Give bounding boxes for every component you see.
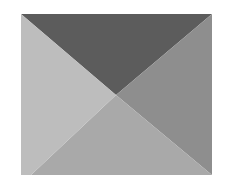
- triangles-graphic: [0, 0, 231, 178]
- quad-triangle-figure: [0, 0, 231, 178]
